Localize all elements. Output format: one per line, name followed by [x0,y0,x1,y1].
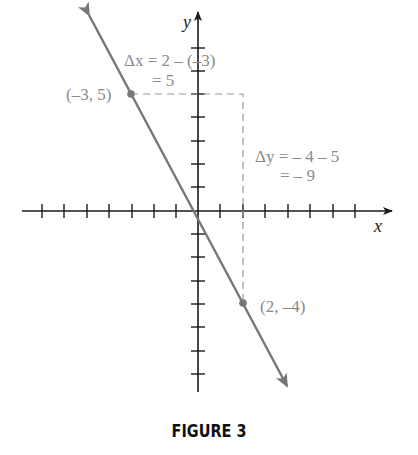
figure-caption: FIGURE 3 [31,421,386,441]
point-2-neg4 [239,299,247,307]
point-label-neg3-5: (–3, 5) [66,85,111,104]
coordinate-plane: y x (–3, 5) (2, –4) Δx = 2 – (–3) = 5 Δy… [0,0,418,455]
delta-x-line1: Δx = 2 – (–3) [124,51,215,70]
delta-x-line2: = 5 [152,71,174,90]
delta-y-line1: Δy = – 4 – 5 [255,147,339,166]
delta-y-line2: = – 9 [280,166,315,185]
y-axis-label: y [181,12,191,32]
x-axis-label: x [373,216,382,236]
point-label-2-neg4: (2, –4) [260,297,305,316]
line-through-points [89,15,287,386]
point-neg3-5 [127,90,135,98]
